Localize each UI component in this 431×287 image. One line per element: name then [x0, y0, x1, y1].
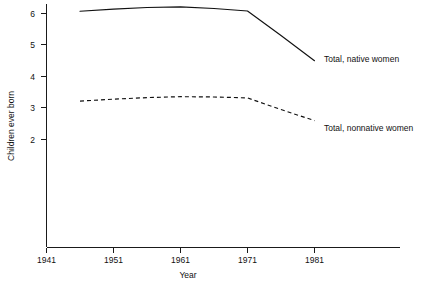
- series-label-native: Total, native women: [324, 54, 399, 64]
- x-tick-label-1961: 1961: [171, 255, 190, 265]
- series-label-nonnative: Total, nonnative women: [324, 123, 414, 133]
- y-tick-label-3: 3: [30, 103, 35, 113]
- chart-figure: 2 3 4 5 6 1941 1951 1961 1971 1981 Year …: [0, 0, 431, 287]
- series-line-native: [80, 7, 315, 61]
- y-tick-label-5: 5: [30, 40, 35, 50]
- series-line-nonnative: [80, 97, 315, 121]
- x-tick-label-1981: 1981: [305, 255, 324, 265]
- y-tick-label-2: 2: [30, 135, 35, 145]
- y-axis-title: Children ever born: [6, 91, 16, 161]
- y-tick-label-4: 4: [30, 72, 35, 82]
- x-tick-label-1941: 1941: [37, 255, 56, 265]
- line-chart-canvas: 2 3 4 5 6 1941 1951 1961 1971 1981 Year …: [0, 0, 431, 287]
- x-axis-title: Year: [179, 270, 196, 280]
- y-tick-label-6: 6: [30, 9, 35, 19]
- x-tick-label-1971: 1971: [238, 255, 257, 265]
- x-tick-label-1951: 1951: [104, 255, 123, 265]
